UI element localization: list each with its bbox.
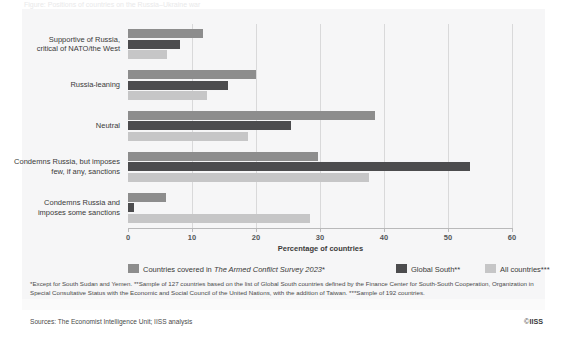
bar-group <box>128 146 512 187</box>
x-tick <box>448 228 449 232</box>
bar <box>128 121 291 130</box>
x-tick-label: 60 <box>508 233 516 242</box>
x-tick <box>192 228 193 232</box>
chart-panel-footer <box>22 299 545 310</box>
clipped-title: Figure: Positions of countries on the Ru… <box>0 0 567 9</box>
sources-line: Sources: The Economist Intelligence Unit… <box>30 318 192 325</box>
x-tick-label: 10 <box>188 233 196 242</box>
bar <box>128 70 256 79</box>
bar <box>128 40 180 49</box>
iiss-copyright: ©IISS <box>524 317 543 326</box>
category-label: Condemns Russia andimposes some sanction… <box>0 198 120 217</box>
category-label: Supportive of Russia,critical of NATO/th… <box>0 35 120 54</box>
bar-group <box>128 65 512 106</box>
x-tick-label: 50 <box>444 233 452 242</box>
category-label: Russia-leaning <box>0 80 120 90</box>
bar <box>128 173 369 182</box>
x-tick-label: 40 <box>380 233 388 242</box>
category-label: Condemns Russia, but imposesfew, if any,… <box>0 157 120 176</box>
x-tick <box>256 228 257 232</box>
category-label: Neutral <box>0 121 120 131</box>
bar <box>128 152 318 161</box>
x-tick <box>320 228 321 232</box>
legend-item[interactable]: All countries*** <box>485 258 550 270</box>
bar <box>128 29 203 38</box>
bar-group <box>128 187 512 228</box>
footnotes: *Except for South Sudan and Yemen. **Sam… <box>30 280 540 297</box>
legend-item[interactable]: Countries covered in The Armed Conflict … <box>128 258 325 270</box>
bar <box>128 91 207 100</box>
x-tick <box>512 228 513 232</box>
bar <box>128 193 166 202</box>
bar <box>128 162 470 171</box>
legend-label: All countries*** <box>500 265 550 274</box>
bar <box>128 50 167 59</box>
figure-root: Figure: Positions of countries on the Ru… <box>0 0 567 338</box>
x-tick-label: 30 <box>316 233 324 242</box>
x-tick <box>384 228 385 232</box>
legend-item[interactable]: Global South** <box>396 258 460 270</box>
bar-group <box>128 106 512 147</box>
gridline <box>512 24 513 228</box>
plot-area <box>128 24 512 228</box>
bar <box>128 132 248 141</box>
chart-legend: Countries covered in The Armed Conflict … <box>128 258 528 270</box>
legend-label: Global South** <box>411 265 460 274</box>
bar <box>128 81 228 90</box>
legend-swatch <box>485 264 496 273</box>
x-axis-title: Percentage of countries <box>128 244 513 253</box>
iiss-mark: IISS <box>529 317 543 326</box>
bar <box>128 214 310 223</box>
x-tick-label: 0 <box>126 233 130 242</box>
bar <box>128 111 375 120</box>
legend-swatch <box>396 264 407 273</box>
legend-swatch <box>128 264 139 273</box>
bar-group <box>128 24 512 65</box>
x-tick-label: 20 <box>252 233 260 242</box>
x-tick <box>128 228 129 232</box>
legend-label: Countries covered in The Armed Conflict … <box>143 265 325 274</box>
bar <box>128 203 134 212</box>
